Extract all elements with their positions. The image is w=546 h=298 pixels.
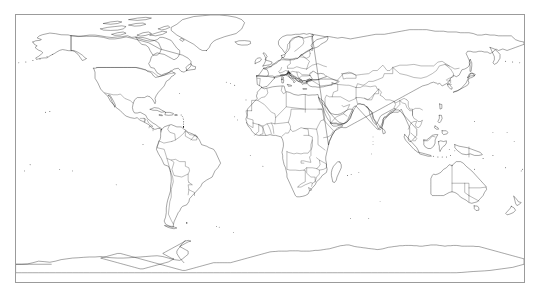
coast-australia (431, 162, 487, 204)
coast-sicily (288, 84, 292, 86)
border-guyanas (185, 131, 197, 137)
coast-india (367, 107, 396, 130)
coast-sumatra (404, 135, 419, 152)
border-iraq-saudi (325, 95, 332, 123)
coast-new-zealand-north (514, 196, 521, 205)
border-kazakhstan (338, 65, 393, 87)
coast-antarctica (16, 240, 524, 272)
europe-group (255, 34, 328, 90)
coast-ireland (255, 58, 261, 64)
islets-lesser-antilles (181, 115, 184, 128)
border-west-africa-5 (259, 125, 266, 136)
coast-tasmania (474, 206, 479, 211)
border-balkans-2 (297, 72, 303, 80)
antarctica-group (16, 240, 524, 272)
coast-scandinavia (278, 34, 313, 54)
border-china-myanmar-laos (407, 100, 423, 110)
border-west-africa-4 (254, 125, 258, 136)
coast-borneo (424, 135, 438, 149)
islet-trinidad (183, 126, 184, 127)
border-mongolia-russia (393, 61, 449, 67)
coast-south-america (156, 125, 220, 228)
border-nigeria (275, 122, 291, 136)
border-germany-poland (287, 60, 290, 68)
north-america-group (33, 15, 251, 130)
border-australia-5 (465, 183, 469, 195)
coast-hispaniola (165, 112, 174, 115)
map-frame (15, 14, 525, 283)
border-west-africa-2 (246, 122, 253, 127)
border-belarus-baltics (300, 54, 311, 69)
coast-mindanao (442, 131, 448, 135)
coast-sardinia (282, 80, 284, 83)
border-chile-argentina (168, 171, 173, 224)
border-central-america-3 (147, 120, 152, 126)
border-usa-mexico (105, 93, 133, 103)
coast-greenland (171, 15, 244, 50)
coast-sri-lanka (382, 128, 385, 134)
border-iran (332, 83, 356, 102)
border-caucasus (326, 76, 337, 84)
border-sweden-norway (286, 36, 299, 52)
border-botswana-namibia (298, 171, 305, 187)
coast-iceland (235, 41, 250, 45)
coast-asia-south-1 (331, 104, 417, 142)
coast-java (419, 152, 432, 156)
border-saudi-yemen (331, 114, 347, 123)
border-chad-sudan (288, 109, 304, 122)
border-sudan-ethiopia (304, 109, 324, 129)
border-paraguay-argentina (188, 182, 192, 194)
border-thailand-malaysia (411, 133, 417, 141)
border-central-asia-1 (342, 73, 356, 79)
south-america-group (156, 125, 220, 229)
border-india-bangladesh (394, 101, 400, 109)
coast-denmark (282, 54, 285, 57)
border-drc (287, 135, 312, 154)
border-pakistan-india (365, 89, 379, 100)
border-mozambique (319, 160, 326, 170)
coast-taiwan (440, 104, 442, 109)
border-algeria-mali-niger (258, 100, 287, 117)
coast-new-zealand-south (506, 206, 516, 214)
border-balkans-3 (299, 75, 310, 78)
coast-puerto-rico (175, 115, 177, 116)
coast-alaska (33, 33, 87, 60)
border-uruguay (189, 190, 195, 196)
border-china-korea (445, 64, 453, 83)
coast-corsica (282, 77, 283, 79)
border-west-africa-1 (246, 111, 253, 123)
coast-cuba (150, 108, 165, 113)
coast-northwest-europe (257, 37, 328, 77)
coast-jamaica (160, 115, 163, 116)
border-finland-sweden (295, 36, 304, 51)
coast-russia-siberia (312, 30, 524, 145)
map-geometry-group (16, 15, 524, 273)
coast-canada (71, 35, 191, 75)
border-kenya-tanzania (317, 129, 325, 150)
country-borders-group (71, 36, 486, 224)
coast-madagascar (331, 162, 341, 183)
coast-palawan (434, 126, 438, 129)
border-malawi (317, 158, 321, 169)
border-pakistan-iran (356, 98, 366, 106)
world-map-figure (0, 0, 546, 298)
border-cameroon-car (290, 128, 308, 136)
border-indochina (408, 110, 422, 129)
coast-philippines (438, 115, 442, 123)
border-west-africa-7 (267, 124, 272, 134)
border-australia-3 (469, 187, 486, 188)
border-australia-4 (469, 196, 479, 201)
border-russia-finland (310, 36, 314, 54)
border-india-myanmar (400, 101, 413, 116)
border-angola-zambia (287, 152, 305, 171)
coast-sulawesi (439, 141, 447, 152)
islet-falklands (186, 222, 187, 223)
border-india-nepal-china (379, 89, 407, 103)
coast-hudson-bay (136, 37, 161, 55)
border-zimbabwe-safrica (307, 168, 315, 182)
border-ethiopia-somalia (324, 120, 334, 138)
border-france-germany (279, 67, 282, 72)
world-map-canvas (16, 15, 524, 282)
border-colombia-venezuela (168, 125, 176, 141)
border-central-europe-1 (288, 67, 307, 69)
